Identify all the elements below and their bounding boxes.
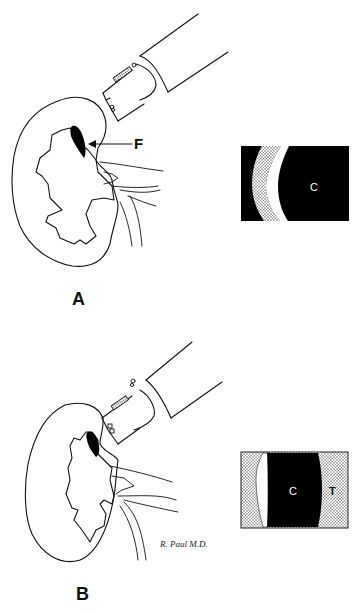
- inset-view-a: C: [241, 146, 349, 221]
- kidney-outline: [12, 97, 118, 266]
- inset-label-t: T: [329, 485, 336, 497]
- artist-signature: R. Paul M.D.: [159, 539, 208, 549]
- hilum-vessel: [120, 506, 138, 560]
- hilum-vessel: [124, 502, 146, 560]
- hilum-vessel: [110, 466, 172, 482]
- inset-label-c: C: [289, 485, 297, 497]
- hilum-vessel: [124, 500, 178, 512]
- endoscope-b: [102, 342, 222, 444]
- fill-region-f: [86, 432, 99, 457]
- endoscope-a: [103, 14, 228, 121]
- hilum-vessel: [100, 162, 163, 171]
- inset-label-c: C: [310, 181, 318, 193]
- hilum-vessel: [118, 496, 176, 500]
- renal-pelvis-outline: [36, 128, 114, 244]
- fill-region-f: [70, 126, 85, 158]
- panel-label-b: B: [76, 584, 89, 604]
- hilum-vessel: [112, 186, 158, 188]
- hilum-vessel: [130, 196, 142, 246]
- panel-b: R. Paul M.D. B C T: [25, 342, 348, 604]
- panel-label-a: A: [72, 289, 85, 309]
- scope-grip: [113, 67, 132, 83]
- panel-a: F A C: [12, 14, 349, 309]
- inset-view-b: C T: [241, 452, 348, 528]
- callout-label-f: F: [134, 135, 143, 152]
- hilum-vessel: [120, 190, 160, 192]
- callout-arrow-head: [88, 140, 96, 148]
- scope-grip: [111, 396, 129, 410]
- figure-canvas: F A C: [0, 0, 360, 613]
- kidney-outline: [25, 403, 118, 561]
- hilum-vessel: [120, 202, 132, 246]
